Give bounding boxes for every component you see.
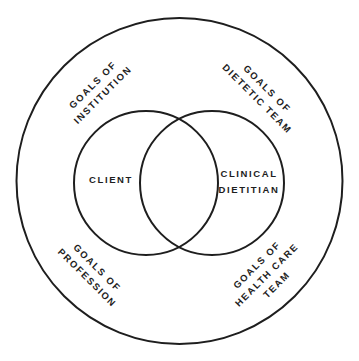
diagram-canvas <box>0 0 359 361</box>
outer-circle <box>17 18 343 344</box>
client-label: CLIENT <box>84 172 138 188</box>
clinical-dietitian-label: CLINICAL DIETITIAN <box>214 166 284 198</box>
client-label-line-1: CLIENT <box>84 172 138 188</box>
clinical-dietitian-line-1: CLINICAL <box>214 166 284 182</box>
clinical-dietitian-line-2: DIETITIAN <box>214 182 284 198</box>
